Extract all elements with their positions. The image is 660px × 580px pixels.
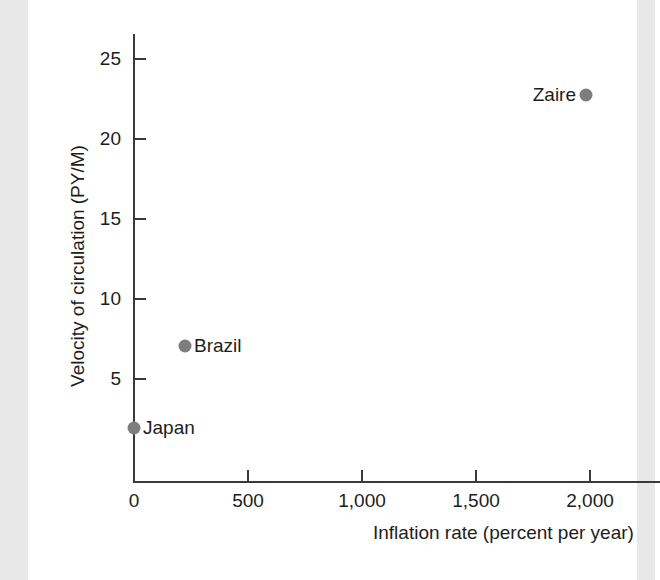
x-tick-label-500: 500 bbox=[232, 491, 264, 510]
y-tick-10 bbox=[135, 298, 146, 300]
y-tick-15 bbox=[135, 218, 146, 220]
y-axis-line bbox=[133, 34, 135, 483]
data-point-label-japan: Japan bbox=[143, 417, 195, 439]
y-tick-label-5: 5 bbox=[110, 369, 121, 388]
scatter-plot: 25 20 15 10 5 0 500 1,000 1,500 2,000 Ve… bbox=[28, 0, 637, 580]
y-tick-label-25: 25 bbox=[100, 49, 121, 68]
y-tick-label-10: 10 bbox=[100, 289, 121, 308]
data-point-label-brazil: Brazil bbox=[194, 335, 242, 357]
x-axis-line bbox=[133, 481, 660, 483]
x-tick-2000 bbox=[589, 470, 591, 481]
data-point-japan[interactable] bbox=[128, 422, 141, 435]
x-tick-label-0: 0 bbox=[129, 491, 140, 510]
y-axis-title: Velocity of circulation (PY/M) bbox=[67, 66, 89, 466]
y-tick-label-15: 15 bbox=[100, 209, 121, 228]
page-edge-strip-right bbox=[637, 0, 655, 580]
data-point-label-zaire: Zaire bbox=[506, 84, 576, 106]
y-tick-25 bbox=[135, 58, 146, 60]
y-tick-20 bbox=[135, 138, 146, 140]
x-tick-label-1000: 1,000 bbox=[338, 491, 386, 510]
y-tick-5 bbox=[135, 378, 146, 380]
x-tick-1500 bbox=[475, 470, 477, 481]
x-tick-label-1500: 1,500 bbox=[452, 491, 500, 510]
y-tick-label-20: 20 bbox=[100, 129, 121, 148]
x-axis-title: Inflation rate (percent per year) bbox=[373, 522, 634, 544]
data-point-zaire[interactable] bbox=[580, 89, 593, 102]
x-tick-500 bbox=[247, 470, 249, 481]
page-edge-strip-left bbox=[0, 0, 28, 580]
x-tick-1000 bbox=[361, 470, 363, 481]
x-tick-label-2000: 2,000 bbox=[566, 491, 614, 510]
data-point-brazil[interactable] bbox=[179, 340, 192, 353]
